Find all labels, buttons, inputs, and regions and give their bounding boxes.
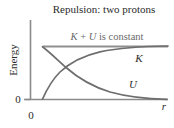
chart-title: Repulsion: two protons	[53, 3, 156, 15]
kinetic-energy-label: K	[134, 52, 143, 64]
constant-sum-annotation: K + U is constant	[69, 31, 143, 42]
y-origin-tick-label: 0	[15, 93, 21, 105]
potential-energy-label: U	[129, 78, 138, 90]
x-origin-tick-label: 0	[28, 109, 34, 121]
constant-sum-plus: +	[78, 31, 89, 42]
energy-diagram-figure: Repulsion: two protons K + U is constant…	[0, 0, 174, 128]
x-axis-variable-label: r	[162, 100, 167, 112]
y-axis-title: Energy	[7, 44, 19, 76]
constant-sum-tail: is constant	[96, 31, 143, 42]
chart-canvas: Repulsion: two protons K + U is constant…	[0, 0, 174, 128]
potential-energy-curve	[43, 47, 168, 100]
